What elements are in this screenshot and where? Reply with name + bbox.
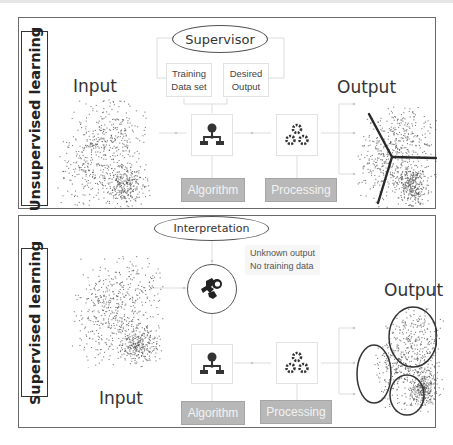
interpretation-circle [187,264,237,314]
algorithm-button-2: Algorithm [181,401,245,425]
unknown-output-note: Unknown output No training data [245,245,320,275]
algorithm-label-2: Algorithm [188,406,239,420]
puzzle-gear-icon [198,275,226,303]
unsupervised-output-label: Output [337,77,396,97]
interpretation-label: Interpretation [174,222,250,235]
cluster-ellipse-upper [389,307,437,367]
algorithm-label: Algorithm [188,183,239,197]
desired-output-card: Desired Output [223,63,269,97]
desired-output-label: Desired Output [224,67,268,93]
hierarchy-icon [199,351,225,377]
cluster-ellipse-dense [390,375,424,415]
interpretation-ellipse: Interpretation [154,216,269,241]
training-data-label: Training Data set [167,67,211,93]
training-data-card: Training Data set [166,63,212,97]
gears-icon [284,122,310,148]
processing-icon-card [276,114,318,156]
note-line-1: Unknown output [250,247,315,260]
cluster-ellipse-left [357,345,391,403]
supervisor-ellipse: Supervisor [172,25,268,53]
note-line-2: No training data [250,260,315,273]
supervisor-label: Supervisor [185,32,254,47]
input-scatter-plot-2 [71,256,166,368]
gears-icon [284,350,310,376]
input-scatter-plot [57,98,152,210]
supervised-panel: Supervised learning Interpretation Unkno… [18,215,436,428]
processing-button: Processing [265,178,337,202]
processing-icon-card-2 [276,342,318,384]
processing-label: Processing [271,183,330,197]
hierarchy-icon [199,122,225,148]
algorithm-button: Algorithm [181,178,245,202]
processing-label-2: Processing [266,405,325,419]
unsupervised-input-label: Input [73,76,117,96]
supervised-output-label: Output [384,280,443,300]
algorithm-icon-card-2 [191,344,233,384]
algorithm-icon-card [191,114,233,156]
supervised-input-label: Input [99,388,143,408]
processing-button-2: Processing [260,400,332,424]
top-rule [0,0,453,3]
cluster-ellipses [355,304,437,426]
partition-lines [357,106,437,208]
unsupervised-panel: Unsupervised learning Input Output Super… [18,17,436,209]
